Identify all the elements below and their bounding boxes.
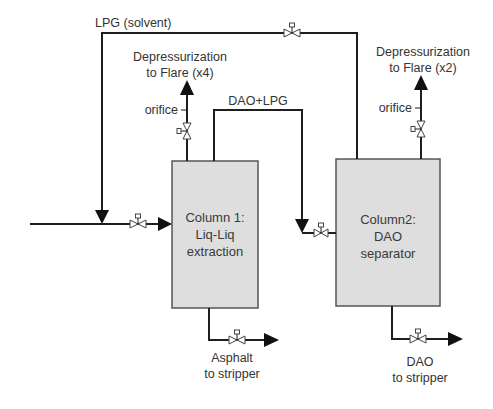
flare-right-label-line1: Depressurization — [376, 45, 470, 59]
process-flow-diagram: Column 1: Liq-Liq extraction Column2: DA… — [0, 0, 493, 409]
feed-valve[interactable] — [130, 214, 146, 228]
lpg-solvent-label: LPG (solvent) — [95, 16, 171, 30]
asphalt-label-line2: to stripper — [204, 367, 260, 381]
column-1[interactable]: Column 1: Liq-Liq extraction — [172, 161, 258, 308]
asphalt-label-line1: Asphalt — [211, 351, 253, 365]
flare-left-arrow-icon — [180, 80, 194, 95]
dao-valve[interactable] — [410, 329, 426, 343]
column-1-flare-valve[interactable] — [177, 123, 191, 139]
dao-label-line2: to stripper — [392, 371, 448, 385]
flare-left-label-line2: to Flare (x4) — [146, 66, 213, 80]
flare-right-arrow-icon — [414, 75, 428, 90]
column-1-subtitle: Liq-Liq — [195, 227, 234, 242]
flare-right-label-line2: to Flare (x2) — [389, 61, 456, 75]
dao-outlet-line — [392, 306, 463, 346]
column-2-flare-line — [414, 75, 428, 159]
lpg-solvent-valve[interactable] — [284, 23, 300, 37]
column-1-title: Column 1: — [185, 210, 244, 225]
column-2-title: Column2: — [360, 212, 416, 227]
orifice-left-label: orifice — [145, 103, 178, 117]
dao-lpg-label: DAO+LPG — [228, 94, 287, 108]
dao-arrow-icon — [448, 332, 463, 346]
column-1-description: extraction — [187, 244, 243, 259]
feed-arrow-icon — [158, 217, 172, 231]
lpg-solvent-arrow-icon — [95, 210, 109, 224]
asphalt-valve[interactable] — [229, 330, 245, 344]
dao-label-line1: DAO — [406, 355, 433, 369]
dao-lpg-valve[interactable] — [314, 223, 328, 237]
asphalt-arrow-icon — [264, 333, 279, 347]
column-2[interactable]: Column2: DAO separator — [336, 159, 440, 306]
orifice-right-label: orifice — [379, 101, 412, 115]
column-2-description: separator — [361, 246, 417, 261]
column-2-subtitle: DAO — [374, 229, 402, 244]
flare-left-label-line1: Depressurization — [133, 50, 227, 64]
column-1-flare-line — [180, 80, 194, 161]
column-2-flare-valve[interactable] — [411, 121, 425, 137]
dao-lpg-arrow-icon — [295, 219, 309, 233]
